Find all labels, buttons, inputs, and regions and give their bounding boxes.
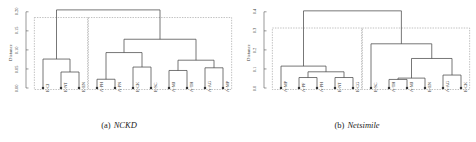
caption-a: (a)NCKD bbox=[0, 120, 238, 130]
leaf-label: E-CG bbox=[355, 82, 360, 92]
leaf-label: A-PN bbox=[117, 82, 122, 92]
leaf-label: E-CK bbox=[463, 82, 468, 92]
caption-a-name: NCKD bbox=[111, 120, 137, 130]
y-tick-label: 0.00 bbox=[14, 78, 19, 98]
y-tick-label: 0.1 bbox=[252, 59, 257, 79]
leaf-label: A-PH bbox=[99, 82, 104, 92]
y-tick-label: 0.20 bbox=[14, 2, 19, 22]
caption-b: (b)Netsimile bbox=[238, 120, 476, 130]
leaf-label: A-PF bbox=[301, 82, 306, 92]
axis-title-b: Distance bbox=[246, 36, 251, 70]
leaf-label: E-NT bbox=[63, 82, 68, 92]
dendrogram-plot-a bbox=[0, 0, 238, 118]
figure-dendrogram-comparison: Distance (a)NCKD 0.000.050.100.150.20E-C… bbox=[0, 0, 476, 142]
y-tick-label: 0.2 bbox=[252, 40, 257, 60]
leaf-label: A-MJ bbox=[171, 82, 176, 92]
leaf-label: A-TH bbox=[189, 82, 194, 93]
caption-b-name: Netsimile bbox=[344, 120, 379, 130]
leaf-label: E-SC bbox=[153, 82, 158, 92]
dendrogram-svg-a bbox=[0, 0, 238, 118]
y-tick-label: 0.3 bbox=[252, 21, 257, 41]
y-tick-label: 0.4 bbox=[252, 2, 257, 22]
y-tick-label: 0.10 bbox=[14, 40, 19, 60]
leaf-label: A-AG bbox=[207, 81, 212, 92]
panel-nckd: Distance (a)NCKD 0.000.050.100.150.20E-C… bbox=[0, 0, 238, 142]
leaf-label: E-NT bbox=[337, 82, 342, 92]
leaf-label: A-PH bbox=[319, 82, 324, 92]
caption-b-id: (b) bbox=[334, 120, 344, 130]
y-tick-label: 0.05 bbox=[14, 59, 19, 79]
leaf-label: E-EN bbox=[81, 82, 86, 92]
leaf-label: E-EN bbox=[427, 82, 432, 92]
dendrogram-plot-b bbox=[238, 0, 476, 118]
axis-title-a: Distance bbox=[8, 36, 13, 70]
leaf-label: E-CK bbox=[135, 82, 140, 92]
leaf-label: A-MJ bbox=[409, 82, 414, 92]
y-tick-label: 0.0 bbox=[252, 78, 257, 98]
caption-a-id: (a) bbox=[101, 120, 110, 130]
panel-netsimile: Distance (b)Netsimile 0.00.10.20.30.4A-M… bbox=[238, 0, 476, 142]
leaf-label: E-CI bbox=[45, 83, 50, 92]
leaf-label: A-AG bbox=[445, 81, 450, 92]
leaf-label: A-TH bbox=[391, 82, 396, 93]
y-tick-label: 0.15 bbox=[14, 21, 19, 41]
dendrogram-svg-b bbox=[238, 0, 476, 118]
leaf-label: A-MP bbox=[283, 81, 288, 92]
leaf-label: E-SC bbox=[373, 82, 378, 92]
leaf-label: A-MP bbox=[225, 81, 230, 92]
